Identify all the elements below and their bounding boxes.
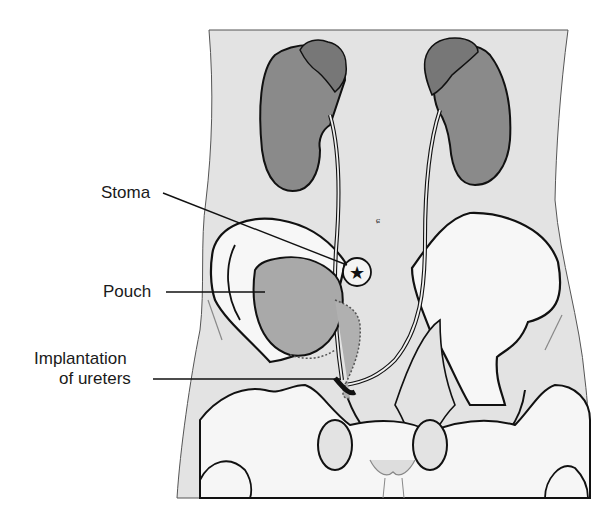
anatomy-diagram: ★ ᶝ: [0, 0, 609, 527]
implantation-label-line1: Implantation: [34, 349, 127, 368]
implantation-label-line2: of ureters: [59, 369, 131, 388]
stoma-label: Stoma: [101, 183, 150, 202]
pouch-label: Pouch: [103, 282, 151, 301]
umbilicus-icon: ᶝ: [376, 215, 381, 230]
stoma-star-icon: ★: [349, 262, 365, 283]
